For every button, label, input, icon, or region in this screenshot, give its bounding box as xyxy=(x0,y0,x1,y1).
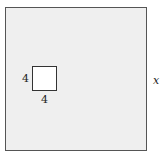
outer-square-side-label: x xyxy=(153,75,159,86)
inner-square xyxy=(32,66,57,91)
inner-square-width-label: 4 xyxy=(41,94,48,105)
inner-square-height-label: 4 xyxy=(22,73,29,84)
